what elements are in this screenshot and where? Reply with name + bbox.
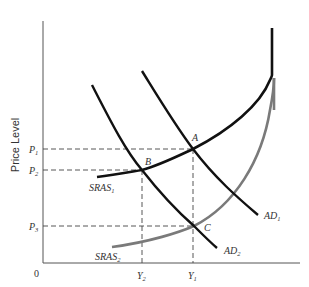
ad2-label: AD2 [223, 245, 241, 257]
sras1-curve [97, 28, 272, 177]
y1-label: Y1 [188, 270, 197, 282]
origin-label: 0 [34, 268, 39, 279]
ad1-label: AD1 [263, 210, 281, 222]
y2-label: Y2 [137, 270, 147, 282]
p2-label: P2 [28, 165, 39, 177]
point-b-label: B [145, 156, 151, 167]
sras2-label: SRAS2 [95, 251, 121, 263]
y-axis-title: Price Level [9, 118, 21, 172]
point-c-label: C [204, 222, 211, 233]
p3-label: P3 [28, 221, 39, 233]
p1-label: P1 [28, 144, 38, 156]
point-a-label: A [191, 132, 199, 143]
sras1-label: SRAS1 [89, 182, 114, 194]
adas-diagram: Price Level P1 P2 P3 0 Y2 Y1 A B C SRAS1… [0, 0, 309, 287]
ad1-curve [142, 71, 258, 215]
